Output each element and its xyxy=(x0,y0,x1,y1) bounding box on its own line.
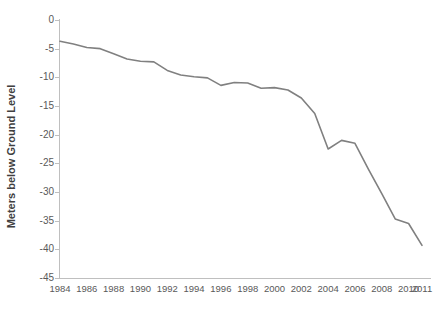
x-axis-tick-label: 2011 xyxy=(412,283,432,295)
y-axis-tick-mark xyxy=(55,221,59,222)
y-axis-tick-mark xyxy=(55,278,59,279)
x-axis-tick-label: 2008 xyxy=(371,283,392,295)
x-axis-tick-label: 1988 xyxy=(103,283,124,295)
y-axis-tick-mark xyxy=(55,163,59,164)
x-axis-tick-label: 1992 xyxy=(157,283,178,295)
x-axis-tick-label: 2004 xyxy=(318,283,339,295)
groundwater-level-line-chart: Meters below Ground Level 0-5-10-15-20-2… xyxy=(0,0,447,313)
x-axis-tick-label: 1984 xyxy=(49,283,70,295)
x-axis-tick-label: 2006 xyxy=(344,283,365,295)
y-axis-tick-mark xyxy=(55,77,59,78)
x-axis-tick-label: 1998 xyxy=(237,283,258,295)
x-axis-tick-label: 2002 xyxy=(291,283,312,295)
y-axis-tick-mark xyxy=(55,249,59,250)
y-axis-tick-mark xyxy=(55,20,59,21)
y-axis-tick-mark xyxy=(55,49,59,50)
data-series-plot xyxy=(0,0,447,313)
x-axis-tick-label: 1994 xyxy=(183,283,204,295)
x-axis-tick-label: 1996 xyxy=(210,283,231,295)
y-axis-tick-mark xyxy=(55,106,59,107)
x-axis-tick-label: 1986 xyxy=(76,283,97,295)
y-axis-tick-mark xyxy=(55,192,59,193)
series-line-groundwater-level xyxy=(60,41,422,245)
x-axis-tick-label-group: 1984198619881990199219941996199820002002… xyxy=(0,283,447,299)
x-axis-tick-label: 2000 xyxy=(264,283,285,295)
x-axis-tick-label: 1990 xyxy=(130,283,151,295)
y-axis-tick-mark xyxy=(55,135,59,136)
